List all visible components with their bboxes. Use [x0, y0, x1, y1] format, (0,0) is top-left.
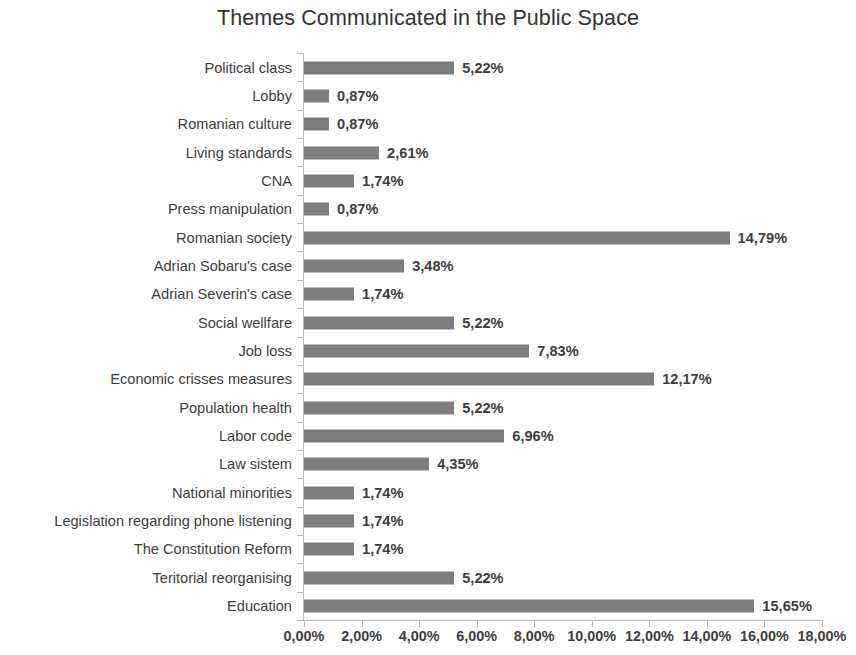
value-axis-label: 10,00%: [567, 628, 616, 644]
category-label: Legislation regarding phone listening: [0, 513, 292, 529]
category-label: Job loss: [0, 343, 292, 359]
bar: [304, 430, 504, 443]
value-tick: [477, 621, 478, 627]
value-tick: [707, 621, 708, 627]
bar-value-label: 1,74%: [362, 541, 403, 557]
bar-value-label: 5,22%: [462, 400, 503, 416]
bar-value-label: 12,17%: [662, 371, 712, 387]
value-axis-label: 12,00%: [625, 628, 674, 644]
bar-row: Political class5,22%: [0, 53, 856, 82]
category-label: CNA: [0, 173, 292, 189]
bar: [304, 174, 354, 187]
category-label: Law sistem: [0, 456, 292, 472]
category-label: Romanian culture: [0, 116, 292, 132]
bar-value-label: 5,22%: [462, 60, 503, 76]
bar-row: Romanian culture0,87%: [0, 110, 856, 139]
category-label: Labor code: [0, 428, 292, 444]
bar-value-label: 0,87%: [337, 116, 378, 132]
bar-row: Social wellfare5,22%: [0, 308, 856, 337]
value-tick: [362, 621, 363, 627]
category-label: Press manipulation: [0, 201, 292, 217]
value-axis-label: 16,00%: [740, 628, 789, 644]
bar: [304, 373, 654, 386]
bar-row: Adrian Sobaru's case3,48%: [0, 251, 856, 280]
bar-value-label: 3,48%: [412, 258, 453, 274]
bar-value-label: 6,96%: [512, 428, 553, 444]
bar-value-label: 1,74%: [362, 485, 403, 501]
value-axis-label: 14,00%: [682, 628, 731, 644]
bar-row: The Constitution Reform1,74%: [0, 535, 856, 564]
bar: [304, 259, 404, 272]
bar-row: Lobby0,87%: [0, 81, 856, 110]
category-label: Population health: [0, 400, 292, 416]
value-axis-label: 0,00%: [284, 628, 325, 644]
bar-row: CNA1,74%: [0, 166, 856, 195]
bar-row: Labor code6,96%: [0, 422, 856, 451]
bar: [304, 600, 754, 613]
category-label: Adrian Sobaru's case: [0, 258, 292, 274]
category-label: Economic crisses measures: [0, 371, 292, 387]
bar-row: Economic crisses measures12,17%: [0, 365, 856, 394]
category-label: Lobby: [0, 88, 292, 104]
bar: [304, 571, 454, 584]
bar-value-label: 5,22%: [462, 570, 503, 586]
bar-value-label: 1,74%: [362, 513, 403, 529]
bar-value-label: 1,74%: [362, 286, 403, 302]
bar-row: Law sistem4,35%: [0, 450, 856, 479]
category-label: Adrian Severin's case: [0, 286, 292, 302]
bar-row: Job loss7,83%: [0, 337, 856, 366]
bar-value-label: 14,79%: [738, 230, 788, 246]
bar: [304, 61, 454, 74]
bar: [304, 543, 354, 556]
category-label: Living standards: [0, 145, 292, 161]
bar-row: Population health5,22%: [0, 393, 856, 422]
value-tick: [304, 621, 305, 627]
bar: [304, 486, 354, 499]
value-axis-label: 4,00%: [399, 628, 440, 644]
bar-value-label: 0,87%: [337, 201, 378, 217]
bar-value-label: 0,87%: [337, 88, 378, 104]
bar: [304, 401, 454, 414]
bar-value-label: 2,61%: [387, 145, 428, 161]
value-tick: [592, 621, 593, 627]
value-tick: [822, 621, 823, 627]
value-axis-label: 2,00%: [341, 628, 382, 644]
bar-value-label: 15,65%: [762, 598, 812, 614]
value-tick: [649, 621, 650, 627]
bar-row: Education15,65%: [0, 592, 856, 621]
bar: [304, 458, 429, 471]
bar: [304, 118, 329, 131]
bar-value-label: 4,35%: [437, 456, 478, 472]
category-label: Education: [0, 598, 292, 614]
bar: [304, 515, 354, 528]
bar-row: National minorities1,74%: [0, 478, 856, 507]
category-label: Teritorial reorganising: [0, 570, 292, 586]
bar-value-label: 5,22%: [462, 315, 503, 331]
value-tick: [534, 621, 535, 627]
category-label: National minorities: [0, 485, 292, 501]
value-tick: [419, 621, 420, 627]
value-tick: [764, 621, 765, 627]
bar-value-label: 1,74%: [362, 173, 403, 189]
category-label: Political class: [0, 59, 292, 75]
bar-row: Press manipulation0,87%: [0, 195, 856, 224]
bar: [304, 146, 379, 159]
value-axis-label: 18,00%: [798, 628, 847, 644]
bar: [304, 345, 529, 358]
bar-value-label: 7,83%: [537, 343, 578, 359]
bar: [304, 288, 354, 301]
bar-row: Living standards2,61%: [0, 138, 856, 167]
value-axis-label: 6,00%: [456, 628, 497, 644]
bar-chart: Themes Communicated in the Public Space …: [0, 0, 856, 655]
bar: [304, 89, 329, 102]
bar-row: Teritorial reorganising5,22%: [0, 563, 856, 592]
category-label: Romanian society: [0, 230, 292, 246]
bar-row: Legislation regarding phone listening1,7…: [0, 507, 856, 536]
plot-area: Political class5,22%Lobby0,87%Romanian c…: [0, 0, 856, 655]
bar: [304, 231, 730, 244]
value-axis-label: 8,00%: [514, 628, 555, 644]
category-label: Social wellfare: [0, 315, 292, 331]
category-label: The Constitution Reform: [0, 541, 292, 557]
bar: [304, 203, 329, 216]
bar-row: Romanian society14,79%: [0, 223, 856, 252]
